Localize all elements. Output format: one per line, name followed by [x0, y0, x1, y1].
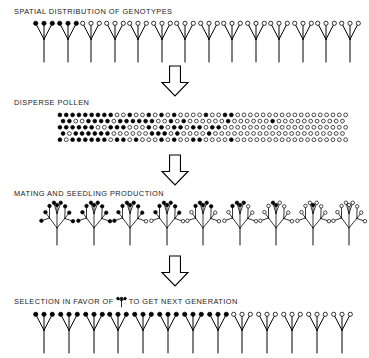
plant-glyph [306, 311, 328, 353]
plant-glyph [80, 20, 102, 62]
plant-glyph [256, 311, 278, 353]
plant-glyph [57, 20, 79, 62]
plant-row-selection [33, 311, 355, 353]
stage-label-disperse-pollen: DISPERSE POLLEN [14, 98, 89, 108]
seedling-cluster-glyph [113, 200, 147, 245]
flow-arrow-down-3 [162, 256, 188, 286]
plant-glyph [83, 311, 105, 353]
pollen-dispersal-band [57, 112, 348, 142]
plant-glyph [58, 311, 80, 353]
plant-glyph [221, 20, 243, 62]
seedling-cluster-glyph [150, 200, 184, 245]
plant-glyph [157, 311, 179, 353]
flow-arrow-down-2 [162, 155, 188, 185]
stage-label-selection: SELECTION IN FAVOR OFTO GET NEXT GENERAT… [14, 296, 238, 307]
plant-glyph [182, 311, 204, 353]
plant-glyph [151, 20, 173, 62]
plant-glyph [245, 20, 267, 62]
plant-glyph [281, 311, 303, 353]
plant-glyph [198, 20, 220, 62]
plant-glyph [33, 311, 55, 353]
stage-label-spatial-distribution: SPATIAL DISTRIBUTION OF GENOTYPES [14, 7, 172, 17]
flow-arrow-down-1 [162, 66, 188, 96]
plant-glyph [231, 311, 253, 353]
plant-glyph [107, 311, 129, 353]
plant-glyph [132, 311, 154, 353]
plant-glyph [292, 20, 314, 62]
plant-glyph [339, 20, 361, 62]
plant-glyph [331, 311, 353, 353]
plant-glyph [315, 20, 337, 62]
plant-glyph [104, 20, 126, 62]
seedling-cluster-glyph [223, 200, 257, 245]
selection-label-after: TO GET NEXT GENERATION [129, 297, 238, 306]
seedling-cluster-row [40, 200, 369, 245]
seedling-cluster-glyph [77, 200, 111, 245]
seedling-cluster-glyph [186, 200, 220, 245]
seedling-cluster-glyph [259, 200, 293, 245]
plant-glyph-icon [116, 296, 127, 307]
plant-glyph [174, 20, 196, 62]
seedling-cluster-glyph [296, 200, 330, 245]
plant-row-spatial-distribution [33, 20, 362, 62]
seedling-cluster-glyph [332, 200, 366, 245]
selection-label-before: SELECTION IN FAVOR OF [14, 297, 114, 306]
plant-glyph [33, 20, 55, 62]
plant-glyph [207, 311, 229, 353]
seedling-cluster-glyph [40, 200, 74, 245]
plant-glyph [127, 20, 149, 62]
plant-glyph [268, 20, 290, 62]
stage-label-mating-seedling-production: MATING AND SEEDLING PRODUCTION [14, 189, 164, 199]
